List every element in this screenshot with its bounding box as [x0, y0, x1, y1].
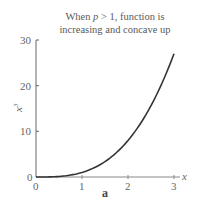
plot-area: 30 20 10 0 0 1 2 3 x x3 [0, 0, 200, 207]
x-tick-label-0: 0 [33, 180, 39, 192]
y-tick-label-30: 30 [20, 34, 32, 46]
y-axis-label: x3 [12, 103, 24, 113]
y-tick-label-10: 10 [20, 125, 32, 137]
x-tick-label-2: 2 [125, 180, 131, 192]
x-tick-label-1: 1 [79, 180, 85, 192]
x-tick-label-3: 3 [171, 180, 177, 192]
y-tick-label-20: 20 [20, 80, 32, 92]
x-axis-label: x [181, 170, 187, 182]
subfigure-label: a [95, 186, 115, 201]
curve-x-cubed [36, 54, 174, 177]
